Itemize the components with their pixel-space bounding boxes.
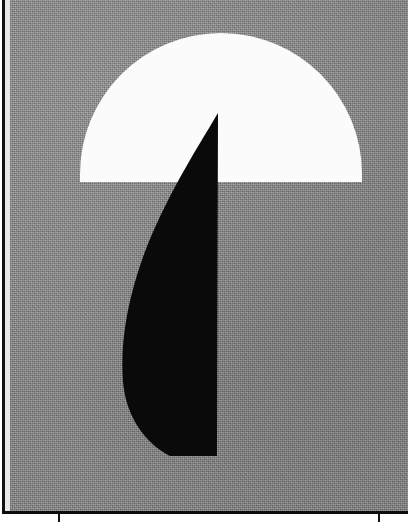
- bottom-border-rule: [2, 511, 408, 514]
- crescent-path: [122, 113, 218, 456]
- artwork-canvas: Abstract geometric composition: [0, 0, 408, 522]
- black-crescent-shape: [118, 112, 218, 457]
- artwork-title: Abstract geometric composition: [0, 0, 1, 1]
- black-crescent-svg: [118, 112, 218, 457]
- right-registration-tick: [378, 514, 380, 522]
- gray-textured-field: [10, 0, 408, 512]
- left-registration-tick: [58, 514, 60, 522]
